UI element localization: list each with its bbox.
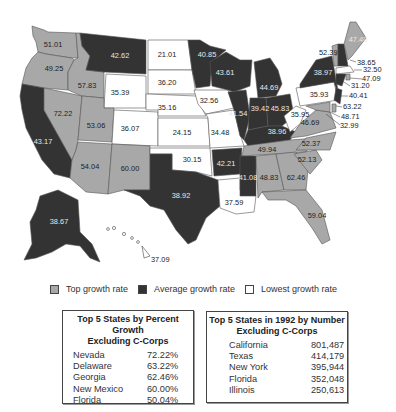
table-row: New York395,944: [207, 362, 347, 373]
label-hi: 37.09: [151, 255, 170, 264]
legend-label-top: Top growth rate: [66, 284, 128, 294]
label-fl: 59.04: [308, 211, 327, 220]
label-ok: 30.15: [183, 155, 202, 164]
label-ia: 32.56: [200, 96, 219, 105]
label-nj: 40.41: [349, 91, 368, 100]
state-value: 250,613: [311, 385, 344, 396]
label-dc: 32.99: [340, 121, 359, 130]
label-wa: 51.01: [44, 40, 63, 49]
label-in: 39.42: [251, 104, 270, 113]
label-tx: 38.92: [172, 191, 191, 200]
state-name: California: [229, 340, 301, 351]
label-mi: 44.69: [260, 83, 279, 92]
state-name: Georgia: [73, 372, 137, 383]
state-name: Nevada: [73, 350, 137, 361]
state-value: 352,048: [311, 374, 344, 385]
label-ks: 24.15: [173, 128, 192, 137]
state-value: 414,179: [311, 351, 344, 362]
label-nc: 52.37: [302, 139, 321, 148]
table-title-line1: Top 5 States by Percent Growth: [63, 314, 193, 336]
table-row: Illinois250,613: [207, 385, 347, 396]
legend-swatch-top: [50, 285, 59, 294]
label-va: 46.69: [301, 118, 320, 127]
legend-label-average: Average growth rate: [154, 284, 235, 294]
state-value: 50.04%: [147, 395, 178, 406]
table-row: Texas414,179: [207, 351, 347, 362]
label-mt: 42.62: [111, 51, 130, 60]
label-de: 63.22: [343, 102, 362, 111]
label-co: 36.07: [121, 124, 140, 133]
label-me: 47.40: [349, 35, 368, 44]
legend-swatch-average: [138, 285, 147, 294]
state-name: New York: [229, 362, 301, 373]
table-row: Nevada72.22%: [63, 350, 193, 361]
label-wv: 35.95: [291, 110, 310, 119]
label-ma: 32.50: [363, 65, 382, 74]
label-vt: 52.39: [319, 48, 338, 57]
label-sc: 52.13: [298, 155, 317, 164]
state-ak: [24, 190, 100, 262]
table-row: Florida50.04%: [63, 395, 193, 406]
us-growth-map: 51.01 49.25 43.17 72.22 57.83 42.62 35.3…: [0, 0, 396, 270]
state-ct: [336, 74, 346, 86]
table-row: Delaware63.22%: [63, 361, 193, 372]
legend-item-lowest: Lowest growth rate: [245, 284, 337, 294]
legend-swatch-lowest: [245, 285, 254, 294]
state-name: Illinois: [229, 385, 301, 396]
state-mi: [254, 58, 282, 98]
state-value: 62.46%: [147, 372, 178, 383]
label-tn: 49.94: [258, 145, 277, 154]
top5-number-1992-table: Top 5 States in 1992 by Number Excluding…: [206, 311, 348, 403]
state-in: [248, 98, 268, 130]
label-ca: 43.17: [34, 137, 53, 146]
label-al: 48.83: [260, 173, 279, 182]
legend-label-lowest: Lowest growth rate: [261, 284, 337, 294]
state-value: 60.00%: [147, 384, 178, 395]
state-value: 801,487: [311, 340, 344, 351]
label-ct: 31.20: [351, 81, 370, 90]
label-id: 57.83: [78, 81, 97, 90]
label-md: 48.71: [341, 112, 360, 121]
state-hi: [107, 226, 150, 258]
table-title-line1: Top 5 States in 1992 by Number: [207, 315, 347, 326]
label-ga: 62.46: [287, 173, 306, 182]
label-wy: 35.39: [111, 88, 130, 97]
label-sd: 36.20: [158, 78, 177, 87]
table-row: Georgia62.46%: [63, 372, 193, 383]
legend-item-average: Average growth rate: [138, 284, 235, 294]
label-ne: 35.16: [158, 103, 177, 112]
legend: Top growth rate Average growth rate Lowe…: [50, 282, 347, 296]
label-ut: 53.06: [87, 121, 106, 130]
label-pa: 35.93: [310, 90, 329, 99]
label-ms: 41.08: [239, 173, 258, 182]
label-az: 54.04: [81, 162, 100, 171]
state-de: [332, 104, 336, 112]
label-mo: 34.48: [211, 128, 230, 137]
table-title-line2: Excluding C-Corps: [207, 326, 347, 337]
state-value: 395,944: [311, 362, 344, 373]
table-title: Top 5 States in 1992 by Number Excluding…: [207, 315, 347, 337]
label-wi: 43.61: [216, 68, 235, 77]
top5-percent-growth-table: Top 5 States by Percent Growth Excluding…: [62, 310, 194, 404]
table-title: Top 5 States by Percent Growth Excluding…: [63, 314, 193, 347]
state-value: 72.22%: [147, 350, 178, 361]
state-name: Delaware: [73, 361, 137, 372]
table-row: Florida352,048: [207, 374, 347, 385]
label-il: 41.54: [229, 109, 248, 118]
label-ky: 38.96: [268, 127, 287, 136]
state-name: Florida: [73, 395, 137, 406]
label-or: 49.25: [45, 64, 64, 73]
label-nv: 72.22: [54, 109, 73, 118]
state-ma: [336, 66, 354, 74]
state-name: Florida: [229, 374, 301, 385]
label-la: 37.59: [225, 198, 244, 207]
state-name: New Mexico: [73, 384, 137, 395]
state-value: 63.22%: [147, 361, 178, 372]
legend-item-top: Top growth rate: [50, 284, 128, 294]
label-oh: 45.83: [271, 104, 290, 113]
table-title-line2: Excluding C-Corps: [63, 336, 193, 347]
label-ar: 42.21: [217, 159, 236, 168]
label-ny: 38.97: [314, 68, 333, 77]
label-nm: 60.00: [121, 164, 140, 173]
label-mn: 40.85: [198, 50, 217, 59]
